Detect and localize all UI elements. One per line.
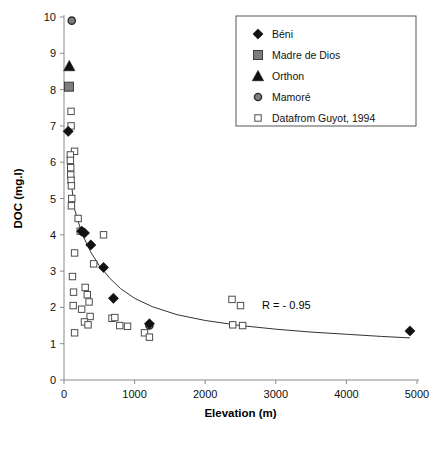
- data-point: [90, 261, 96, 267]
- data-point: [98, 262, 108, 272]
- x-tick-label: 4000: [334, 388, 358, 400]
- series-madre-de-dios: [64, 82, 73, 91]
- data-point: [229, 296, 235, 302]
- data-point: [239, 322, 245, 328]
- legend-marker-icon: [255, 115, 261, 121]
- y-tick-label: 7: [50, 120, 56, 132]
- data-point: [85, 322, 91, 328]
- series-datafrom-guyot-1994: [67, 108, 246, 340]
- data-point: [68, 17, 75, 24]
- data-point: [68, 108, 74, 114]
- legend-item-b-ni[interactable]: Béni: [253, 28, 293, 40]
- data-point: [67, 157, 73, 163]
- legend-item-label: Madre de Dios: [272, 49, 340, 61]
- data-point: [68, 183, 74, 189]
- trendline: [71, 179, 410, 338]
- y-tick-label: 1: [50, 338, 56, 350]
- series-orthon: [64, 60, 75, 70]
- y-tick-label: 8: [50, 84, 56, 96]
- data-point: [70, 289, 76, 295]
- legend-frame: [236, 16, 416, 126]
- data-point: [71, 250, 77, 256]
- trend-curve: [71, 179, 410, 338]
- data-point: [405, 326, 415, 336]
- x-tick-label: 1000: [122, 388, 146, 400]
- data-point: [64, 82, 73, 91]
- data-point: [86, 240, 96, 250]
- legend-item-label: Datafrom Guyot, 1994: [272, 112, 375, 124]
- y-axis-title: DOC (mg.l): [12, 168, 24, 228]
- chart-figure: 012345678910010002000300040005000Elevati…: [0, 0, 433, 450]
- y-tick-label: 4: [50, 229, 56, 241]
- y-tick-label: 5: [50, 193, 56, 205]
- data-point: [82, 284, 88, 290]
- y-tick-label: 3: [50, 265, 56, 277]
- data-point: [146, 334, 152, 340]
- legend-marker-icon: [254, 93, 261, 100]
- data-point: [69, 195, 75, 201]
- correlation-annotation: R = - 0.95: [262, 299, 311, 311]
- y-tick-label: 9: [50, 47, 56, 59]
- scatter-plot: 012345678910010002000300040005000Elevati…: [0, 0, 433, 450]
- y-tick-label: 10: [44, 11, 56, 23]
- annotations-layer: R = - 0.95: [262, 299, 311, 311]
- legend-item-label: Mamoré: [272, 91, 311, 103]
- data-point: [86, 299, 92, 305]
- x-tick-label: 3000: [264, 388, 288, 400]
- data-point: [70, 302, 76, 308]
- data-point: [117, 322, 123, 328]
- legend-item-label: Béni: [272, 28, 293, 40]
- legend-item-label: Orthon: [272, 70, 304, 82]
- y-tick-label: 0: [50, 374, 56, 386]
- legend-item-datafrom-guyot-1994[interactable]: Datafrom Guyot, 1994: [255, 112, 376, 124]
- legend-marker-icon: [254, 51, 263, 60]
- data-point: [68, 164, 74, 170]
- data-point: [108, 293, 118, 303]
- data-point: [71, 330, 77, 336]
- data-point: [230, 322, 236, 328]
- data-point: [78, 306, 84, 312]
- data-point: [69, 273, 75, 279]
- data-point: [124, 323, 130, 329]
- data-point: [64, 60, 75, 70]
- data-point: [75, 215, 81, 221]
- series-mamor: [68, 17, 153, 329]
- data-point: [68, 203, 74, 209]
- x-tick-label: 2000: [193, 388, 217, 400]
- data-point: [100, 232, 106, 238]
- x-tick-label: 5000: [405, 388, 429, 400]
- chart-legend: BéniMadre de DiosOrthonMamoréDatafrom Gu…: [236, 16, 416, 126]
- data-point: [112, 314, 118, 320]
- data-point: [84, 291, 90, 297]
- y-tick-label: 2: [50, 301, 56, 313]
- x-tick-label: 0: [61, 388, 67, 400]
- y-tick-label: 6: [50, 156, 56, 168]
- x-axis-title: Elevation (m): [204, 407, 276, 419]
- data-point: [237, 302, 243, 308]
